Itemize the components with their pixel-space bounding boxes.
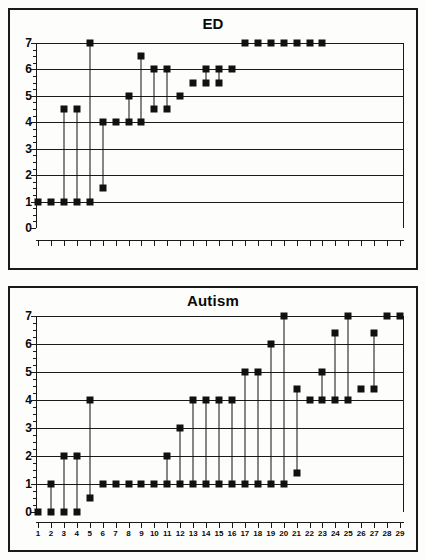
y-tick-major-6 — [31, 344, 36, 345]
gridline-y-6 — [36, 344, 404, 345]
connector-x27 — [374, 333, 375, 389]
gridline-y-2 — [36, 456, 404, 457]
data-point-x8-y5 — [125, 92, 132, 99]
connector-x20 — [283, 316, 284, 484]
x-tick-19 — [271, 522, 272, 528]
x-tick-19 — [271, 240, 272, 246]
gridline-y-3 — [36, 149, 404, 150]
x-tick-1 — [38, 240, 39, 246]
data-point-x3-y1 — [60, 198, 67, 205]
y-tick-minor — [33, 76, 36, 77]
data-point-x5-y1 — [86, 198, 93, 205]
data-point-x12-y3 — [177, 425, 184, 432]
data-point-x5-y0.5 — [86, 495, 93, 502]
data-point-x23-y5 — [319, 369, 326, 376]
data-point-x23-y7 — [319, 40, 326, 47]
x-tick-29 — [400, 240, 401, 246]
data-point-x3-y4.5 — [60, 106, 67, 113]
y-tick-minor — [33, 221, 36, 222]
x-tick-label-12: 12 — [176, 530, 185, 538]
y-tick-minor — [33, 386, 36, 387]
x-tick-26 — [361, 240, 362, 246]
y-tick-minor — [33, 215, 36, 216]
x-tick-21 — [297, 240, 298, 246]
data-point-x20-y7 — [280, 313, 287, 320]
data-point-x8-y1 — [125, 481, 132, 488]
x-tick-9 — [141, 240, 142, 246]
x-tick-6 — [103, 240, 104, 246]
connector-x19 — [270, 344, 271, 484]
data-point-x5-y7 — [86, 40, 93, 47]
connector-x10 — [154, 69, 155, 109]
x-tick-label-7: 7 — [113, 530, 117, 538]
x-tick-7 — [116, 240, 117, 246]
chart-title-ed: ED — [10, 15, 416, 32]
y-tick-major-6 — [31, 69, 36, 70]
data-point-x2-y1 — [47, 198, 54, 205]
y-tick-minor — [33, 442, 36, 443]
x-tick-2 — [51, 522, 52, 528]
data-point-x11-y1 — [164, 481, 171, 488]
x-tick-label-20: 20 — [279, 530, 288, 538]
x-tick-label-24: 24 — [331, 530, 340, 538]
y-tick-minor — [33, 102, 36, 103]
data-point-x18-y5 — [254, 369, 261, 376]
y-tick-minor — [33, 129, 36, 130]
data-point-x1-y1 — [35, 198, 42, 205]
data-point-x15-y1 — [216, 481, 223, 488]
connector-x12 — [180, 428, 181, 484]
data-point-x16-y1 — [228, 481, 235, 488]
x-tick-11 — [167, 240, 168, 246]
y-tick-minor — [33, 188, 36, 189]
x-tick-label-17: 17 — [240, 530, 249, 538]
data-point-x21-y4.4 — [293, 385, 300, 392]
y-tick-minor — [33, 83, 36, 84]
data-point-x16-y6 — [228, 66, 235, 73]
x-tick-label-27: 27 — [370, 530, 379, 538]
x-tick-label-6: 6 — [100, 530, 104, 538]
x-tick-label-28: 28 — [383, 530, 392, 538]
x-tick-4 — [77, 240, 78, 246]
data-point-x5-y4 — [86, 397, 93, 404]
data-point-x20-y7 — [280, 40, 287, 47]
y-tick-minor — [33, 379, 36, 380]
y-tick-minor — [33, 323, 36, 324]
y-tick-minor — [33, 351, 36, 352]
chart-panel-autism: Autism 012345671234567891011121314151617… — [8, 286, 418, 552]
x-tick-10 — [154, 240, 155, 246]
x-tick-26 — [361, 522, 362, 528]
data-point-x17-y1 — [241, 481, 248, 488]
x-tick-4 — [77, 522, 78, 528]
x-tick-12 — [180, 522, 181, 528]
y-tick-minor — [33, 505, 36, 506]
x-tick-17 — [245, 240, 246, 246]
y-tick-major-3 — [31, 149, 36, 150]
y-tick-minor — [33, 498, 36, 499]
connector-x3 — [63, 456, 64, 512]
data-point-x29-y7 — [397, 313, 404, 320]
x-tick-9 — [141, 522, 142, 528]
x-tick-label-4: 4 — [75, 530, 79, 538]
x-tick-23 — [322, 240, 323, 246]
data-point-x11-y4.5 — [164, 106, 171, 113]
y-tick-minor — [33, 330, 36, 331]
data-point-x7-y4 — [112, 119, 119, 126]
data-point-x10-y4.5 — [151, 106, 158, 113]
x-tick-13 — [193, 522, 194, 528]
y-tick-minor — [33, 182, 36, 183]
data-point-x11-y2 — [164, 453, 171, 460]
gridline-y-5 — [36, 372, 404, 373]
connector-x16 — [231, 400, 232, 484]
data-point-x25-y4 — [345, 397, 352, 404]
y-tick-major-7 — [31, 43, 36, 44]
data-point-x15-y5.5 — [216, 79, 223, 86]
y-tick-major-5 — [31, 96, 36, 97]
x-tick-6 — [103, 522, 104, 528]
y-tick-minor — [33, 142, 36, 143]
data-point-x15-y4 — [216, 397, 223, 404]
data-point-x6-y4 — [99, 119, 106, 126]
y-tick-minor — [33, 491, 36, 492]
data-point-x8-y4 — [125, 119, 132, 126]
x-tick-15 — [219, 240, 220, 246]
data-point-x25-y7 — [345, 313, 352, 320]
